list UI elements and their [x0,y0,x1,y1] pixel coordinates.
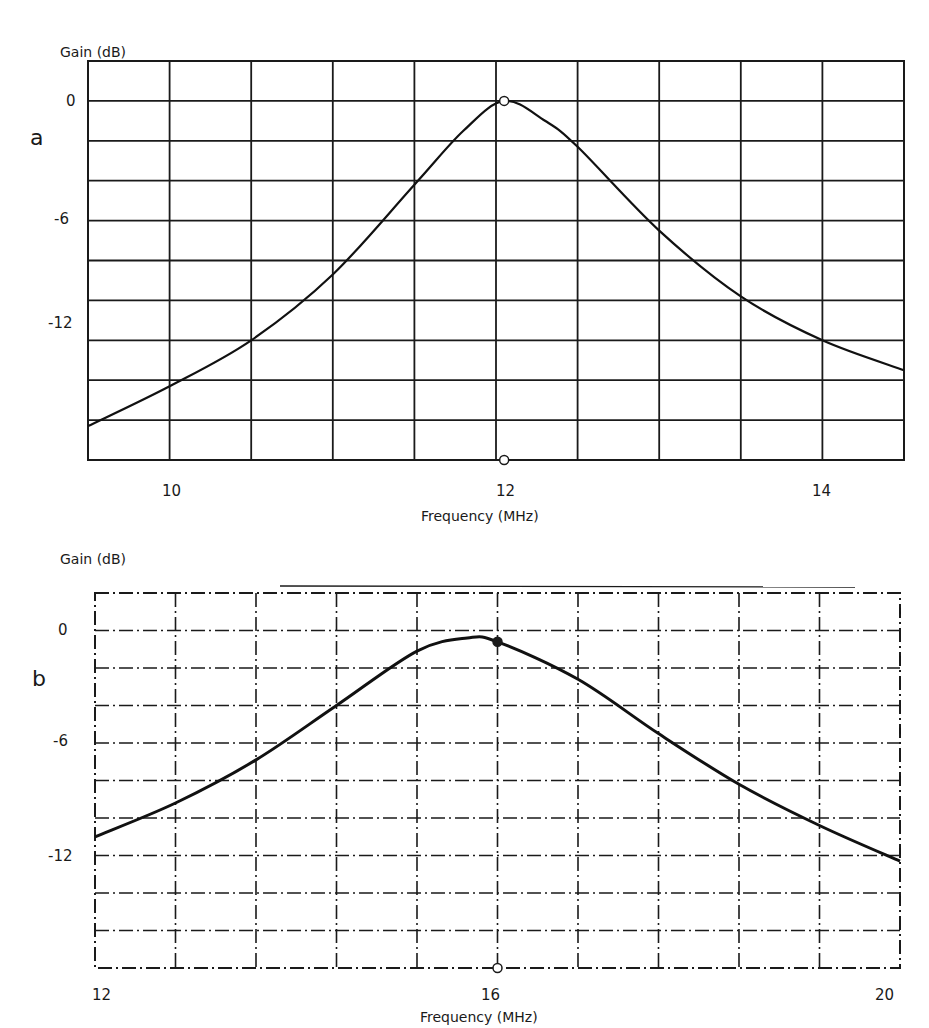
panel-letter: a [30,125,43,150]
chart-panel-a: Gain (dB) a 0 -6 -12 10 12 14 Frequency … [30,44,904,524]
x-tick-label: 12 [496,482,515,500]
x-tick-label: 12 [92,986,111,1004]
chart-panel-b: Gain (dB) b 0 -6 -12 12 16 20 Frequency … [32,551,900,1025]
x-tick-label: 10 [162,482,181,500]
y-tick-label: 0 [58,621,68,639]
marker-circle-icon [500,96,509,105]
x-tick-label: 16 [481,986,500,1004]
x-tick-label: 20 [875,986,894,1004]
y-tick-label: -12 [48,314,73,332]
y-tick-label: 0 [66,92,76,110]
panel-letter: b [32,666,46,691]
y-tick-label: -6 [54,210,69,228]
y-tick-label: -6 [53,732,68,750]
y-axis-title: Gain (dB) [60,551,126,567]
x-tick-label: 14 [812,482,831,500]
marker-circle-icon [493,637,502,646]
figure: Gain (dB) a 0 -6 -12 10 12 14 Frequency … [0,0,929,1028]
grid [95,593,900,968]
top-rule [280,586,855,587]
y-tick-label: -12 [48,847,73,865]
grid [88,61,904,460]
markers [500,96,509,464]
marker-circle-icon [493,964,502,973]
marker-circle-icon [500,456,509,465]
y-axis-title: Gain (dB) [60,44,126,60]
x-axis-title: Frequency (MHz) [421,508,539,524]
x-axis-title: Frequency (MHz) [420,1009,538,1025]
